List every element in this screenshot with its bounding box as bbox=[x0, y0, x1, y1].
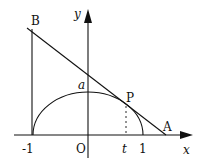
point-p-label: P bbox=[126, 91, 134, 105]
x-axis-label: x bbox=[183, 143, 190, 157]
tick-t-label: t bbox=[122, 142, 127, 156]
y-axis-label: y bbox=[73, 7, 81, 21]
point-a-label: A bbox=[162, 120, 172, 134]
point-b-label: B bbox=[31, 14, 40, 28]
origin-label: O bbox=[76, 142, 86, 156]
tick-neg-one-label: -1 bbox=[22, 142, 34, 156]
point-a-lower-label: a bbox=[78, 78, 85, 92]
y-axis-arrow-icon bbox=[84, 9, 92, 23]
geometry-diagram: B y a P A -1 O t 1 x bbox=[0, 0, 207, 168]
y-axis bbox=[84, 9, 92, 158]
tick-one-label: 1 bbox=[139, 142, 147, 156]
x-axis-arrow-icon bbox=[180, 131, 193, 139]
tangent-line bbox=[27, 28, 166, 135]
